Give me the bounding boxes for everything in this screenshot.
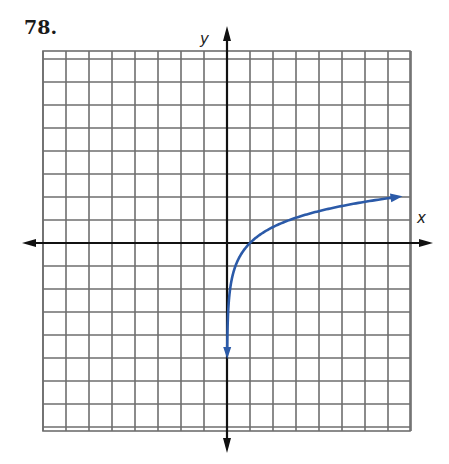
graph-plot xyxy=(0,0,449,464)
axes xyxy=(22,26,433,453)
